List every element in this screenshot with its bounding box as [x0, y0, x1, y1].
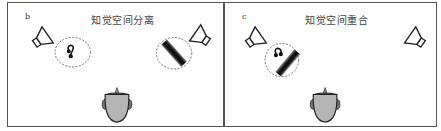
scene-c: [225, 3, 437, 126]
sound-source-circle: [55, 37, 90, 67]
panel-c: c 知觉空间重合: [225, 3, 437, 126]
speaker-left-icon: [242, 27, 266, 52]
music-note-icon: [275, 48, 282, 56]
noise-bar-icon: [161, 40, 187, 67]
figure-frame: b 知觉空间分离: [7, 2, 437, 127]
speaker-right-icon: [405, 27, 429, 52]
speaker-right-icon: [190, 25, 214, 50]
panel-b: b 知觉空间分离: [8, 3, 223, 126]
scene-b: [8, 3, 223, 126]
listener-head-icon: [102, 88, 132, 122]
music-note-icon: [68, 45, 74, 57]
speaker-left-icon: [29, 27, 53, 52]
listener-head-icon: [310, 88, 340, 122]
